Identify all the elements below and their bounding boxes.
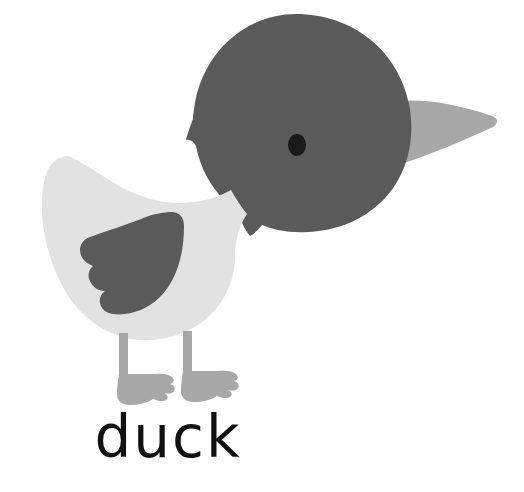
duck-illustration: duck [0,0,524,492]
duck-vector-graphic [0,0,524,492]
eye-shape [288,134,306,156]
